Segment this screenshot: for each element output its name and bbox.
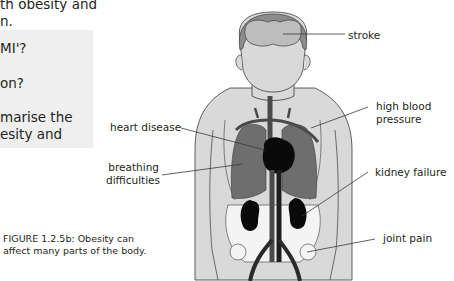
figure-caption: FIGURE 1.2.5b: Obesity can affect many p… — [3, 233, 146, 257]
label-stroke: stroke — [348, 29, 380, 41]
hip-joint-left — [230, 244, 246, 260]
caption-line-2: affect many parts of the body. — [3, 245, 146, 257]
kidney-left — [241, 200, 260, 231]
brain — [245, 20, 301, 46]
label-joint-pain: joint pain — [383, 232, 432, 244]
caption-line-1: FIGURE 1.2.5b: Obesity can — [3, 233, 146, 245]
label-kidney-failure: kidney failure — [375, 166, 447, 178]
label-high-blood-pressure-line-2: pressure — [376, 113, 421, 125]
label-breathing-line-2: difficulties — [106, 174, 159, 186]
label-high-blood-pressure-line-1: high blood — [376, 100, 431, 112]
label-heart-disease: heart disease — [110, 121, 181, 133]
label-breathing-line-1: breathing — [108, 161, 159, 173]
